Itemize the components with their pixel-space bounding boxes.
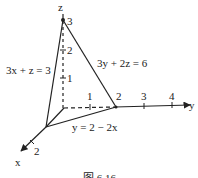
equation-right-plane: 3y + 2z = 6 — [97, 57, 148, 69]
diagram-canvas: z y x 3 2 1 1 2 3 4 2 3x + z = 3 3y + 2z… — [0, 0, 198, 178]
equation-left-plane: 3x + z = 3 — [6, 64, 51, 76]
z-tick-2: 2 — [67, 44, 73, 56]
z-tick-3: 3 — [67, 15, 73, 27]
z-tick-1: 1 — [67, 72, 73, 84]
z-axis — [60, 14, 66, 108]
y-axis-label: y — [189, 99, 195, 111]
y-tick-1: 1 — [87, 90, 93, 102]
y-tick-3: 3 — [141, 90, 147, 102]
equation-base-line: y = 2 − 2x — [72, 121, 118, 133]
x-tick-2: 2 — [34, 145, 40, 157]
region-edges — [46, 18, 118, 127]
figure-caption: 图 6.16 — [83, 172, 117, 178]
x-axis — [21, 108, 64, 151]
y-axis — [64, 102, 190, 110]
y-tick-2: 2 — [116, 90, 122, 102]
y-tick-4: 4 — [169, 90, 175, 102]
z-axis-label: z — [58, 1, 63, 13]
x-axis-label: x — [15, 156, 21, 168]
